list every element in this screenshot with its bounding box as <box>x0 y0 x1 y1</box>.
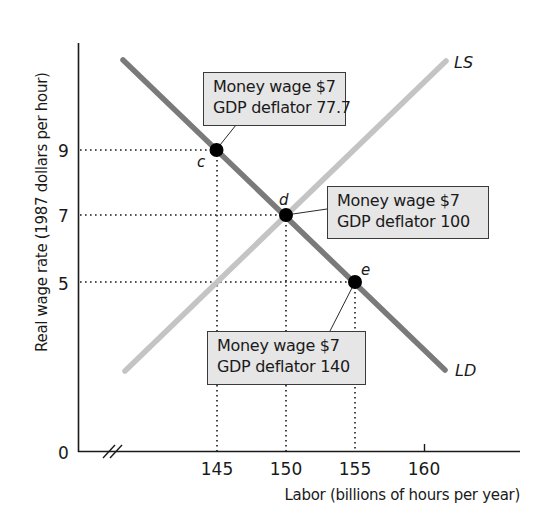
point-c <box>210 143 224 157</box>
point-c-label: c <box>197 153 206 171</box>
y-tick-9: 9 <box>58 141 69 161</box>
callout-c-gdp-deflator: GDP deflator 77.7 <box>213 97 345 118</box>
callout-box-d: Money wage $7 GDP deflator 100 <box>327 186 489 239</box>
callout-e-gdp-deflator: GDP deflator 140 <box>217 356 365 377</box>
callout-box-c: Money wage $7 GDP deflator 77.7 <box>203 72 346 126</box>
callout-e-money-wage: Money wage $7 <box>217 335 365 356</box>
point-d-label: d <box>279 191 289 209</box>
point-e-label: e <box>361 261 370 279</box>
y-tick-0: 0 <box>58 443 69 463</box>
ls-label: LS <box>454 53 473 72</box>
point-d <box>279 208 293 222</box>
y-tick-7: 7 <box>58 206 69 226</box>
y-axis-title: Real wage rate (1987 dollars per hour) <box>33 72 51 352</box>
callout-c-money-wage: Money wage $7 <box>213 76 345 97</box>
x-axis-title: Labor (billions of hours per year) <box>285 486 520 504</box>
ld-label: LD <box>455 361 476 380</box>
callout-d-money-wage: Money wage $7 <box>337 190 488 211</box>
callout-box-e: Money wage $7 GDP deflator 140 <box>207 331 366 385</box>
x-tick-155: 155 <box>339 459 371 479</box>
leader-e <box>330 282 355 331</box>
x-tick-160: 160 <box>408 459 440 479</box>
x-tick-145: 145 <box>201 459 233 479</box>
callout-d-gdp-deflator: GDP deflator 100 <box>337 211 488 232</box>
y-tick-5: 5 <box>58 274 69 294</box>
point-e <box>348 275 362 289</box>
guide-lines <box>80 150 355 451</box>
x-tick-150: 150 <box>270 459 302 479</box>
